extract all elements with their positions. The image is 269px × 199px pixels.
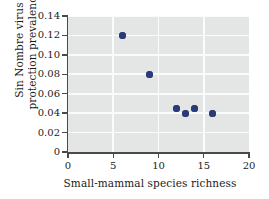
data-point [146,71,153,78]
y-tick-label: 0.10 [0,48,60,59]
y-tick-label: 0.08 [0,68,60,79]
x-tick-label: 15 [184,160,224,171]
x-tick-mark [113,153,114,158]
y-tick-mark [62,74,67,75]
gridline-vertical [112,16,114,152]
data-point [209,110,216,117]
x-axis-title: Small-mammal species richness [40,177,260,189]
gridline-vertical [203,16,205,152]
data-point [191,105,198,112]
y-tick-mark [62,35,67,36]
x-tick-mark [203,153,204,158]
x-tick-mark [248,153,249,158]
plot-area [68,16,249,152]
y-tick-mark [62,93,67,94]
y-tick-label: 0.02 [0,126,60,137]
y-tick-label: 0.12 [0,29,60,40]
y-tick-label: 0.04 [0,107,60,118]
x-tick-label: 5 [93,160,133,171]
data-point [182,110,189,117]
gridline-vertical [158,16,160,152]
y-tick-mark [62,54,67,55]
x-tick-label: 0 [48,160,88,171]
y-tick-mark [62,15,67,16]
x-tick-mark [158,153,159,158]
y-tick-mark [62,151,67,152]
x-tick-label: 20 [229,160,269,171]
scatter-plot-figure: Sin Nombre virus protection prevalence 0… [0,0,269,199]
y-tick-mark [62,112,67,113]
y-tick-mark [62,132,67,133]
y-tick-label: 0 [0,146,60,157]
data-point [173,105,180,112]
data-point [119,32,126,39]
y-tick-label: 0.06 [0,87,60,98]
x-tick-mark [67,153,68,158]
x-tick-label: 10 [139,160,179,171]
y-tick-label: 0.14 [0,10,60,21]
